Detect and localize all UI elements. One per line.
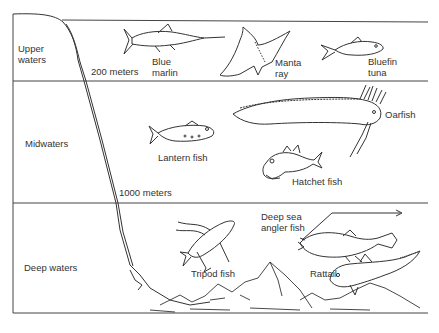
zone-label-midwaters: Midwaters [25, 138, 68, 149]
label-oarfish: Oarfish [385, 109, 416, 120]
rattail-illustration [330, 251, 420, 295]
surface-line [62, 20, 428, 22]
zone-label-upper-waters: Upper waters [18, 43, 46, 65]
zone-label-deep-waters: Deep waters [24, 262, 77, 273]
hatchet-fish-illustration [263, 145, 322, 179]
depth-marker-1000m: 1000 meters [119, 187, 172, 198]
label-tripod-fish: Tripod fish [191, 268, 235, 279]
label-bluefin-tuna: Bluefin tuna [368, 56, 397, 78]
diagram-drawing [0, 0, 439, 333]
label-lantern-fish: Lantern fish [158, 152, 208, 163]
label-blue-marlin: Blue marlin [152, 56, 178, 78]
ocean-zones-diagram: Upper waters Midwaters Deep waters 200 m… [0, 0, 439, 333]
oarfish-illustration [233, 85, 386, 157]
depth-marker-200m: 200 meters [91, 66, 139, 77]
blue-marlin-illustration [124, 24, 225, 54]
label-manta-ray: Manta ray [275, 57, 301, 79]
label-angler-fish: Deep sea angler fish [261, 211, 305, 233]
angler-fish-illustration [298, 210, 402, 262]
label-hatchet-fish: Hatchet fish [292, 176, 342, 187]
label-rattail: Rattail [310, 268, 337, 279]
tripod-fish-illustration [176, 221, 235, 272]
lantern-fish-illustration [149, 121, 214, 144]
